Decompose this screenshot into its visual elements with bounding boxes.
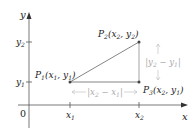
p2-label: P2(x2, y2) [97, 29, 139, 40]
x2-tick-label: x2 [135, 110, 144, 121]
x1-tick-label: x1 [66, 110, 75, 121]
horizontal-distance-label: |x2 − x1| [87, 87, 123, 98]
y-axis [27, 12, 32, 128]
x-axis-arrow-icon [181, 103, 188, 108]
point-p3 [138, 81, 141, 84]
x-axis-label: x [182, 111, 188, 122]
y-axis-arrow-icon [27, 12, 32, 19]
p3-label: P3(x2, y1) [142, 85, 184, 96]
vertical-distance-label: |y2 − y1| [145, 57, 181, 68]
point-p2 [138, 41, 141, 44]
x-axis [18, 103, 188, 108]
distance-formula-diagram: |x2 − x1| |y2 − y1| y x 0 y2 y1 x1 x2 P1… [0, 0, 192, 131]
y-axis-label: y [19, 9, 26, 20]
origin-label: 0 [20, 108, 26, 119]
y2-tick-label: y2 [15, 37, 25, 48]
p1-label: P1(x1, y1) [34, 70, 76, 81]
hypotenuse-segment [70, 42, 139, 82]
y1-tick-label: y1 [15, 77, 25, 88]
